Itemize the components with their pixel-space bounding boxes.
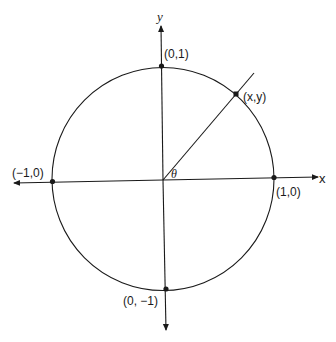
point-bottom (163, 286, 168, 291)
label-top: (0,1) (164, 47, 189, 61)
point-top (159, 63, 164, 68)
x-axis-label: x (319, 171, 326, 186)
terminal-ray (163, 73, 254, 180)
y-axis-negative (163, 180, 166, 330)
y-axis-label: y (155, 9, 163, 24)
x-axis (163, 177, 318, 180)
unit-circle-diagram: y x (0,1) (0, −1) (−1,0) (1,0) (x,y) θ (0, 0, 336, 342)
y-axis (161, 26, 163, 180)
label-point-xy: (x,y) (243, 90, 266, 104)
x-axis-negative (14, 180, 163, 183)
point-on-circle (234, 92, 239, 97)
label-left: (−1,0) (12, 166, 44, 180)
label-right: (1,0) (276, 185, 301, 199)
point-right (271, 175, 276, 180)
point-left (50, 179, 55, 184)
label-bottom: (0, −1) (123, 294, 158, 308)
angle-theta-label: θ (171, 167, 177, 181)
